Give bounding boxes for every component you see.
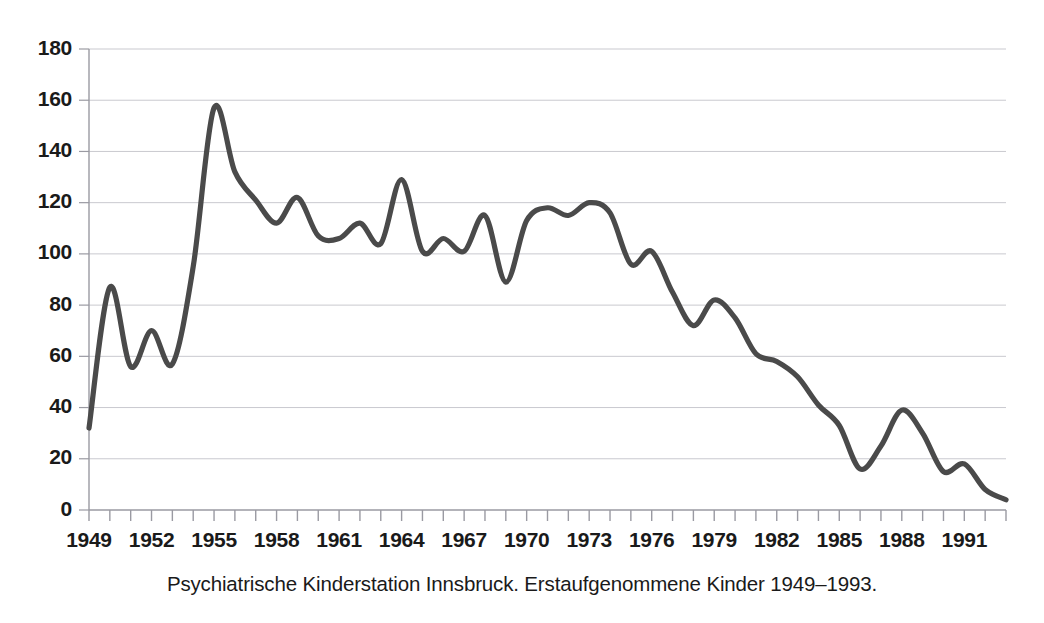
y-tick-label: 180: [38, 36, 72, 59]
x-tick-label: 1970: [504, 528, 550, 551]
x-tick-label: 1985: [817, 528, 863, 551]
x-axis-ticks: [89, 510, 1006, 521]
caption-text: Psychiatrische Kinderstation Innsbruck. …: [167, 572, 877, 596]
x-tick-label: 1964: [379, 528, 425, 551]
x-tick-label: 1955: [191, 528, 237, 551]
gridlines: [89, 49, 1006, 459]
y-axis-tick-labels: 020406080100120140160180: [38, 36, 89, 520]
x-tick-label: 1991: [942, 528, 988, 551]
x-axis-tick-labels: 1949195219551958196119641967197019731976…: [66, 528, 987, 551]
x-tick-label: 1982: [754, 528, 800, 551]
figure-caption: Psychiatrische Kinderstation Innsbruck. …: [0, 560, 1044, 608]
y-tick-label: 80: [49, 292, 72, 315]
y-tick-label: 160: [38, 87, 72, 110]
x-tick-label: 1961: [316, 528, 362, 551]
x-tick-label: 1967: [441, 528, 487, 551]
y-tick-label: 60: [49, 343, 72, 366]
x-tick-label: 1958: [254, 528, 300, 551]
y-tick-label: 40: [49, 394, 72, 417]
x-tick-label: 1973: [566, 528, 612, 551]
x-tick-label: 1976: [629, 528, 675, 551]
y-tick-label: 120: [38, 189, 72, 212]
x-tick-label: 1988: [879, 528, 925, 551]
x-tick-label: 1979: [691, 528, 737, 551]
x-tick-label: 1952: [129, 528, 175, 551]
line-chart: 020406080100120140160180 194919521955195…: [0, 0, 1044, 560]
figure: 020406080100120140160180 194919521955195…: [0, 0, 1044, 623]
y-tick-label: 100: [38, 240, 72, 263]
y-tick-label: 140: [38, 138, 72, 161]
x-tick-label: 1949: [66, 528, 112, 551]
series-path: [89, 105, 1006, 499]
data-series-line: [89, 105, 1006, 499]
chart-area: 020406080100120140160180 194919521955195…: [0, 0, 1044, 560]
y-tick-label: 20: [49, 445, 72, 468]
y-tick-label: 0: [61, 497, 72, 520]
